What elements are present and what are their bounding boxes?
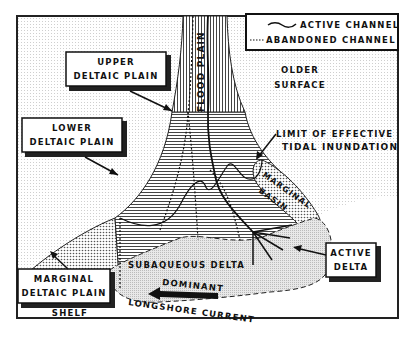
label-active-1: ACTIVE: [330, 248, 371, 258]
label-older-2: SURFACE: [274, 80, 325, 90]
label-shelf: SHELF: [52, 308, 88, 318]
legend-abandoned-channel: ABANDONED CHANNEL: [266, 35, 396, 45]
label-marginal-dp-2: DELTAIC PLAIN: [21, 288, 106, 298]
legend-active-channel: ACTIVE CHANNEL: [300, 20, 399, 30]
label-subaqueous-delta: SUBAQUEOUS DELTA: [128, 260, 245, 270]
label-upper-1: UPPER: [97, 57, 135, 67]
label-tidal-2: TIDAL INUNDATION: [282, 142, 398, 152]
label-older-1: OLDER: [281, 65, 319, 75]
label-tidal-1: LIMIT OF EFFECTIVE: [276, 129, 393, 139]
legend: ACTIVE CHANNEL ABANDONED CHANNEL: [246, 14, 399, 50]
label-lower-2: DELTAIC PLAIN: [29, 137, 114, 147]
label-upper-2: DELTAIC PLAIN: [73, 71, 158, 81]
label-flood-plain: FLOOD PLAIN: [196, 31, 206, 112]
label-marginal-dp-1: MARGINAL: [34, 274, 94, 284]
label-lower-1: LOWER: [52, 123, 92, 133]
delta-diagram: ACTIVE CHANNEL ABANDONED CHANNEL FLOOD P…: [0, 0, 412, 337]
label-active-2: DELTA: [334, 262, 369, 272]
